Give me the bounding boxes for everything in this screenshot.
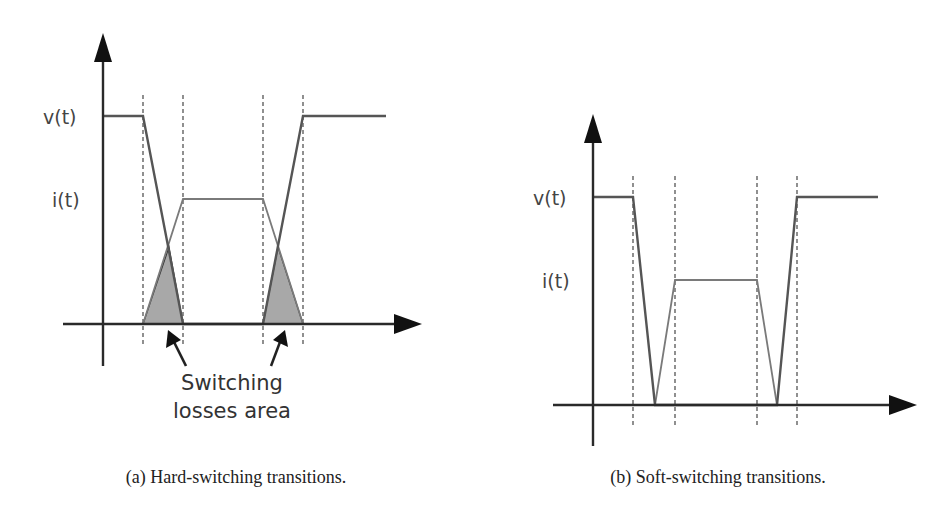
y-axis-arrow-icon — [94, 33, 112, 62]
caption-a: (a) Hard-switching transitions. — [126, 467, 346, 488]
current-label: i(t) — [52, 189, 80, 211]
switching-transitions-figure: v(t) i(t) Switching losses area (a) Hard… — [0, 0, 944, 517]
x-axis-arrow-icon — [889, 395, 917, 415]
voltage-waveform — [593, 197, 878, 405]
current-label: i(t) — [542, 270, 570, 292]
panel-soft-switching: v(t) i(t) (b) Soft-switching transitions… — [533, 114, 917, 488]
x-axis-arrow-icon — [394, 314, 422, 334]
annotation-line1: Switching — [181, 371, 283, 395]
current-waveform — [655, 280, 777, 405]
pointer-line — [174, 342, 186, 366]
voltage-label: v(t) — [533, 187, 567, 209]
pointer-line — [271, 342, 280, 366]
panel-hard-switching: v(t) i(t) Switching losses area (a) Hard… — [43, 33, 422, 488]
pointer-arrow-icon — [273, 330, 288, 347]
caption-b: (b) Soft-switching transitions. — [610, 467, 825, 488]
voltage-label: v(t) — [43, 106, 77, 128]
voltage-waveform — [103, 116, 386, 324]
y-axis-arrow-icon — [584, 114, 602, 143]
loss-annotation-pointers — [166, 330, 288, 366]
pointer-arrow-icon — [166, 330, 181, 348]
annotation-line2: losses area — [173, 399, 291, 423]
